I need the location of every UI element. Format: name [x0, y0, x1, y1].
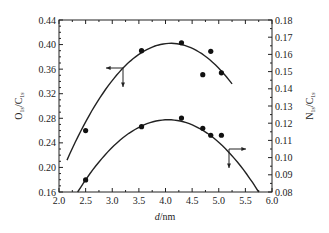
data-point	[219, 70, 224, 75]
data-point	[139, 48, 144, 53]
down-arrow-icon-head	[227, 163, 231, 168]
x-tick-label: 5.5	[239, 195, 252, 206]
data-point	[139, 124, 144, 129]
y-left-tick-label: 0.36	[39, 64, 57, 75]
y-left-tick-label: 0.40	[39, 39, 57, 50]
y-right-tick-label: 0.10	[275, 152, 293, 163]
y-left-tick-label: 0.44	[39, 15, 57, 26]
data-point	[208, 133, 213, 138]
y-left-tick-label: 0.16	[39, 187, 57, 198]
y-right-tick-label: 0.15	[275, 66, 293, 77]
data-point	[83, 177, 88, 182]
fit-curves	[67, 43, 259, 192]
x-tick-label: 3.0	[106, 195, 119, 206]
data-points	[83, 40, 224, 182]
data-point	[200, 126, 205, 131]
y-axis-right-title: N1s/C1s	[304, 92, 316, 120]
x-tick-label: 5.0	[213, 195, 226, 206]
y-right-tick-label: 0.16	[275, 49, 293, 60]
y-axis-left-title: O1s/C1s	[13, 92, 25, 120]
x-tick-label: 4.5	[186, 195, 199, 206]
y-left-tick-label: 0.28	[39, 113, 57, 124]
fit-curve-left	[67, 43, 232, 160]
fit-curve-right	[78, 120, 259, 192]
data-point	[219, 133, 224, 138]
y-right-tick-label: 0.18	[275, 15, 293, 26]
axis-indicator-arrows	[106, 66, 246, 168]
chart-svg: 2.02.53.03.54.04.55.05.56.00.160.200.240…	[0, 0, 329, 233]
data-point	[179, 40, 184, 45]
data-point	[200, 72, 205, 77]
y-right-tick-label: 0.14	[275, 83, 293, 94]
left-arrow-icon-head	[106, 66, 111, 70]
x-tick-label: 2.5	[79, 195, 92, 206]
x-tick-label: 3.5	[133, 195, 146, 206]
y-right-tick-label: 0.11	[275, 135, 292, 146]
data-point	[83, 128, 88, 133]
x-axis-title: d/nm	[155, 211, 176, 222]
y-right-tick-label: 0.08	[275, 187, 293, 198]
data-point	[179, 115, 184, 120]
right-arrow-icon-head	[241, 147, 246, 151]
y-right-tick-label: 0.13	[275, 101, 293, 112]
y-left-tick-label: 0.32	[39, 88, 57, 99]
data-point	[208, 49, 213, 54]
y-right-tick-label: 0.12	[275, 118, 293, 129]
x-tick-label: 4.0	[159, 195, 172, 206]
y-right-tick-label: 0.17	[275, 32, 293, 43]
y-left-tick-label: 0.24	[39, 137, 57, 148]
y-right-tick-label: 0.09	[275, 169, 293, 180]
down-arrow-icon-head	[121, 82, 125, 87]
y-left-tick-label: 0.20	[39, 162, 57, 173]
